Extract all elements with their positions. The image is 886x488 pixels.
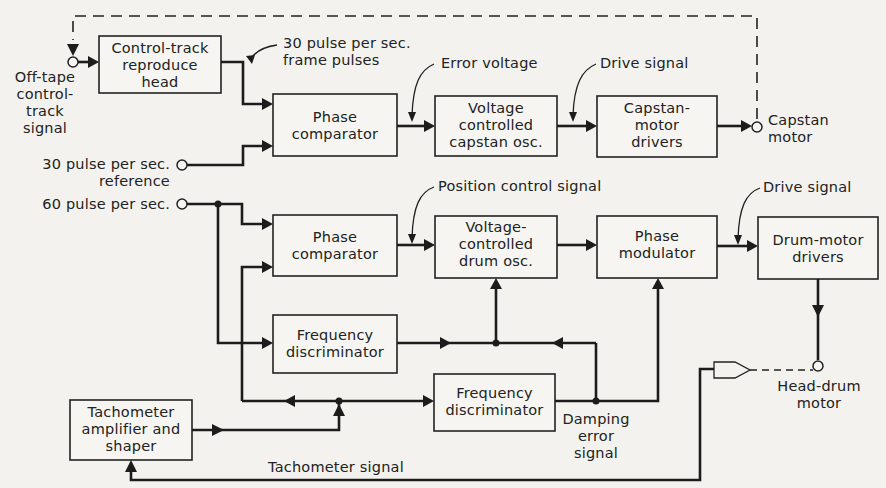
servo-block-diagram: Control-track reproduce head Phase compa… <box>0 0 886 488</box>
tach-pickup-icon <box>714 362 750 378</box>
block-phase-comparator-capstan: Phase comparator <box>273 109 397 143</box>
block-capstan-drivers: Capstan- motor drivers <box>597 100 717 151</box>
block-freq-disc-lower: Frequency discriminator <box>434 385 555 419</box>
block-vco-drum: Voltage- controlled drum osc. <box>435 219 557 270</box>
block-freq-disc-upper: Frequency discriminator <box>273 327 397 361</box>
block-tach-amp: Tachometer amplifier and shaper <box>70 404 192 455</box>
block-phase-comparator-drum: Phase comparator <box>273 229 397 263</box>
label-head-drum-motor: Head-drum motor <box>776 378 862 412</box>
label-ref-60: 60 pulse per sec. <box>20 196 170 213</box>
label-off-tape: Off-tape control- track signal <box>0 69 90 137</box>
label-capstan-motor: Capstan motor <box>768 112 829 146</box>
label-drive-signal-drum: Drive signal <box>763 179 852 196</box>
label-error-voltage: Error voltage <box>441 55 538 72</box>
arrow-icon <box>67 44 79 56</box>
block-control-track-head: Control-track reproduce head <box>99 40 221 91</box>
label-frame-pulses: 30 pulse per sec. frame pulses <box>283 35 411 69</box>
block-phase-modulator: Phase modulator <box>597 228 717 262</box>
label-drive-signal-capstan: Drive signal <box>600 55 689 72</box>
label-damping-error: Damping error signal <box>560 411 632 462</box>
label-ref-30: 30 pulse per sec. reference <box>20 156 170 190</box>
label-tach-signal: Tachometer signal <box>268 459 404 476</box>
block-vco-capstan: Voltage controlled capstan osc. <box>435 100 557 151</box>
block-drum-drivers: Drum-motor drivers <box>758 232 878 266</box>
label-position-control: Position control signal <box>438 178 601 195</box>
